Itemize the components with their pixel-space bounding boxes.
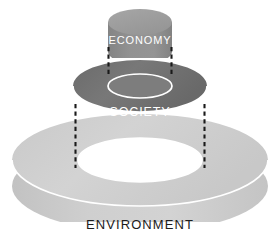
nested-rings-diagram: ECONOMY SOCIETY ENVIRONMENT xyxy=(0,0,280,249)
nested-rings-illustration: ECONOMY SOCIETY ENVIRONMENT xyxy=(0,0,280,249)
environment-layer xyxy=(12,114,268,232)
economy-top-surface xyxy=(108,9,172,35)
label-economy: ECONOMY xyxy=(108,34,171,46)
label-environment: ENVIRONMENT xyxy=(86,217,194,232)
label-society: SOCIETY xyxy=(109,105,170,119)
